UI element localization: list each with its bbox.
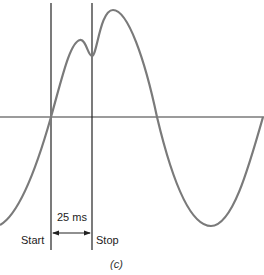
stop-label: Stop xyxy=(96,235,119,246)
figure-caption: (c) xyxy=(110,258,123,270)
arrowhead-left xyxy=(52,231,59,236)
arrowhead-right xyxy=(84,231,91,236)
start-label: Start xyxy=(21,235,44,246)
waveform-curve xyxy=(0,10,263,226)
interval-label: 25 ms xyxy=(57,212,87,223)
